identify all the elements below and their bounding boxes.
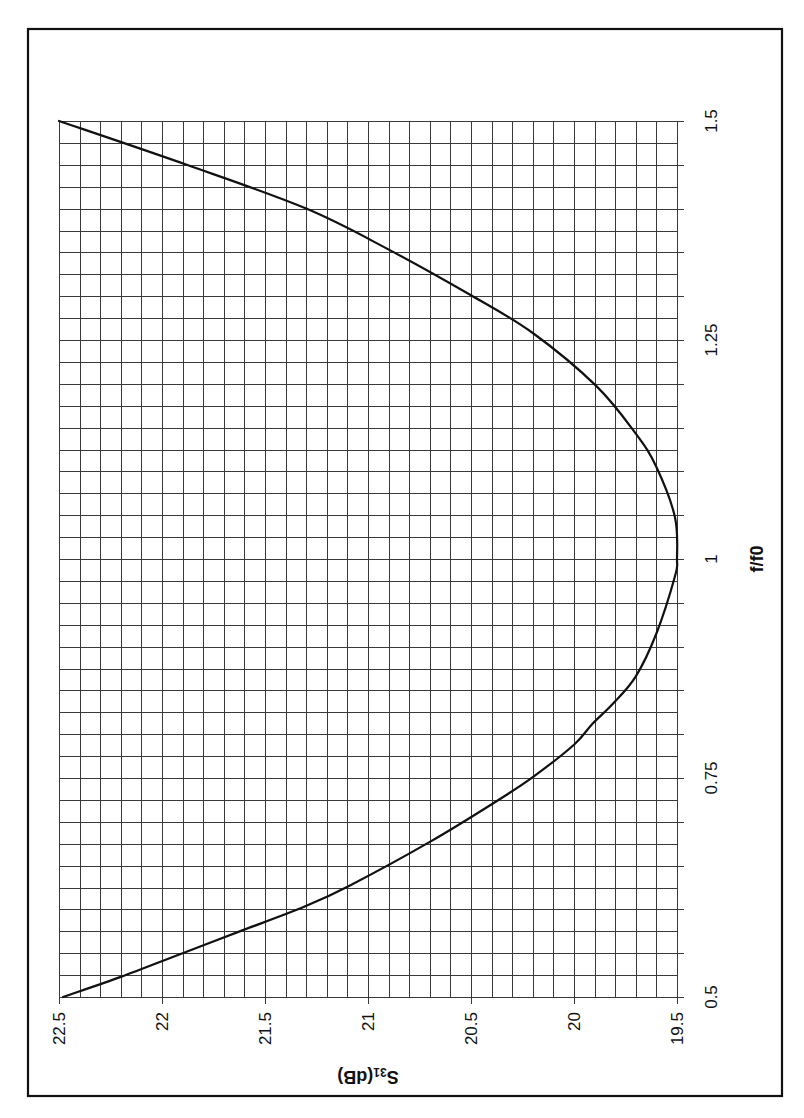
y-axis-title-main: S: [387, 1067, 399, 1087]
y-axis-tick-label: 19.5: [668, 1012, 687, 1045]
chart-container: 0.50.7511.251.5 19.52020.52121.52222.5 f…: [0, 0, 804, 1118]
y-axis-title-subscript: 31: [373, 1065, 387, 1079]
plot-grid: [59, 121, 684, 998]
chart-figure: 0.50.7511.251.5 19.52020.52121.52222.5 f…: [0, 0, 804, 1118]
y-axis-tick-label: 22.5: [50, 1012, 69, 1045]
y-axis-tick-label: 21: [359, 1012, 378, 1031]
y-axis-tick-labels: 19.52020.52121.52222.5: [50, 1012, 687, 1045]
x-axis-tick-label: 0.5: [702, 985, 721, 1009]
axis-ticks: [60, 997, 678, 1004]
y-axis-title-unit: (dB): [337, 1067, 373, 1087]
y-axis-tick-label: 20.5: [462, 1012, 481, 1045]
x-axis-tick-labels: 0.50.7511.251.5: [702, 109, 721, 1009]
y-axis-tick-label: 21.5: [256, 1012, 275, 1045]
y-axis-tick-label: 20: [565, 1012, 584, 1031]
y-axis-title: S31(dB): [337, 1065, 398, 1087]
x-axis-tick-label: 1: [702, 554, 721, 563]
y-axis-tick-label: 22: [153, 1012, 172, 1031]
x-axis-tick-label: 1.5: [702, 109, 721, 133]
x-axis-title: f/f0: [747, 546, 767, 573]
x-axis-tick-label: 1.25: [702, 323, 721, 356]
x-axis-tick-label: 0.75: [702, 761, 721, 794]
